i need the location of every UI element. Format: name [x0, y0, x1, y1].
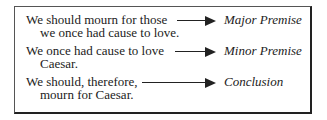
- major-premise-text-line-2: we once had cause to love.: [40, 26, 179, 40]
- conclusion-label: Conclusion: [224, 75, 283, 89]
- minor-premise-label: Minor Premise: [224, 44, 302, 58]
- minor-premise-text-line-2: Caesar.: [40, 57, 78, 71]
- conclusion-text-line-2: mourn for Caesar.: [40, 88, 134, 102]
- major-premise-label: Major Premise: [224, 13, 302, 27]
- arrow-right-icon: [142, 78, 216, 88]
- arrow-right-icon: [175, 47, 216, 57]
- arrow-right-icon: [177, 16, 216, 26]
